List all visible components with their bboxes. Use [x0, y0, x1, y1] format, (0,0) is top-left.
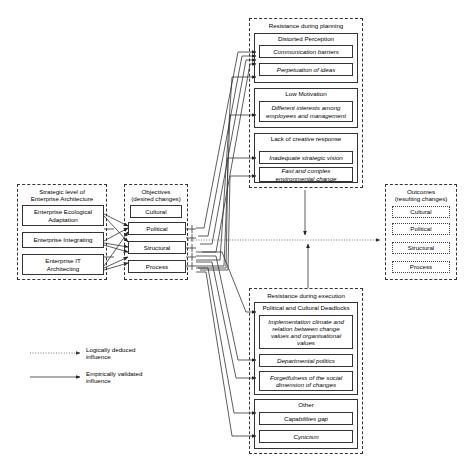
node-objective-cultural[interactable]: Cultural — [130, 205, 182, 218]
node-fast-and-complex-environmental-change[interactable]: Fast and complex environmental change — [259, 167, 353, 182]
diagram-canvas: Resistance during planning Distorted Per… — [0, 0, 476, 472]
subgroup-title-distorted-perception: Distorted Perception — [254, 35, 358, 42]
legend-empirical-label: Empirically validated influence — [86, 370, 172, 385]
legend-empirical-line2: influence — [86, 377, 172, 384]
group-title-objectives-line2: (desired changes) — [124, 195, 188, 202]
node-departmental-politics[interactable]: Departmental politics — [259, 354, 353, 367]
node-different-interests[interactable]: Different interests among employees and … — [259, 101, 353, 122]
node-forgetfulness-social-dimension[interactable]: Forgetfulness of the social dimension of… — [259, 371, 353, 391]
node-cynicism[interactable]: Cynicism — [259, 430, 353, 443]
node-objective-political[interactable]: Political — [128, 222, 186, 235]
group-title-strategic-level: Strategic level of Enterprise Architectu… — [17, 188, 107, 202]
group-title-objectives: Objectives (desired changes) — [124, 188, 188, 202]
node-objective-structural[interactable]: Structural — [128, 241, 186, 254]
node-inadequate-strategic-vision[interactable]: Inadequate strategic vision — [259, 151, 353, 164]
node-outcome-structural[interactable]: Structural — [392, 242, 450, 254]
subgroup-title-lack-of-creative-response: Lack of creative response — [254, 135, 358, 142]
group-title-outcomes-line1: Outcomes — [385, 188, 457, 195]
group-title-resistance-planning: Resistance during planning — [249, 22, 363, 29]
node-enterprise-it-architecting[interactable]: Enterprise IT Architecting — [22, 254, 104, 275]
group-title-strategic-line2: Enterprise Architecture — [17, 195, 107, 202]
node-outcome-political[interactable]: Political — [392, 223, 450, 235]
node-enterprise-ecological-adaptation[interactable]: Enterprise Ecological Adaptation — [22, 205, 104, 226]
subgroup-title-low-motivation: Low Motivation — [254, 90, 358, 97]
node-capabilities-gap[interactable]: Capabilities gap — [259, 412, 353, 425]
node-enterprise-integrating[interactable]: Enterprise Integrating — [22, 232, 104, 248]
legend-empirical-line1: Empirically validated — [86, 370, 172, 377]
node-objective-process[interactable]: Process — [128, 260, 186, 273]
legend-logical-label: Logically deduced influence — [86, 346, 166, 361]
group-title-strategic-line1: Strategic level of — [17, 188, 107, 195]
legend-logical-line1: Logically deduced — [86, 346, 166, 353]
node-implementation-climate[interactable]: Implementation climate and relation betw… — [259, 315, 353, 349]
group-title-outcomes-line2: (resulting changes) — [385, 195, 457, 202]
legend-logical-line2: influence — [86, 353, 166, 360]
node-perpetuation-of-ideas[interactable]: Perpetuation of ideas — [259, 63, 353, 76]
group-title-resistance-execution: Resistance during execution — [249, 292, 363, 299]
node-outcome-process[interactable]: Process — [392, 261, 450, 273]
node-communication-barriers[interactable]: Communication barriers — [259, 45, 353, 58]
subgroup-title-other: Other — [254, 401, 358, 408]
subgroup-title-political-cultural-deadlocks: Political and Cultural Deadlocks — [252, 304, 360, 311]
group-title-outcomes: Outcomes (resulting changes) — [385, 188, 457, 202]
group-title-objectives-line1: Objectives — [124, 188, 188, 195]
node-outcome-cultural[interactable]: Cultural — [392, 206, 450, 218]
